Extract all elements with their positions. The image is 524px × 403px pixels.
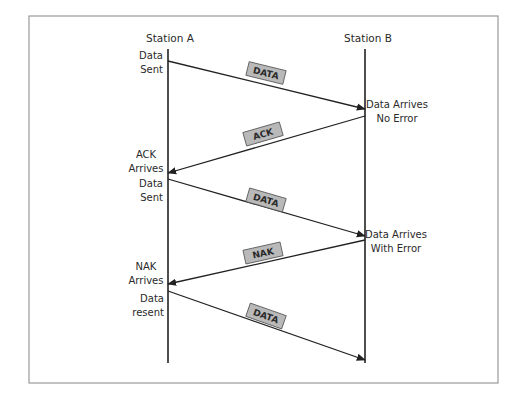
message-data-2: DATA xyxy=(168,179,365,236)
event-label-line: Sent xyxy=(140,64,163,75)
event-label-line: Data Arrives xyxy=(365,229,427,240)
event-label-line: Data Arrives xyxy=(366,99,428,110)
diagram-canvas: Station AStation B DATAACKDATANAKDATA Da… xyxy=(0,0,524,403)
event-label-line: Data xyxy=(139,178,163,189)
event-label-line: Arrives xyxy=(129,163,164,174)
message-arrow xyxy=(168,291,365,360)
message-label-tag: ACK xyxy=(243,122,283,146)
messages: DATAACKDATANAKDATA xyxy=(168,61,365,360)
message-label-tag: DATA xyxy=(246,188,286,212)
event-annotation: ACKArrives xyxy=(129,149,164,174)
station-a-title: Station A xyxy=(146,32,195,44)
event-label-line: Arrives xyxy=(129,275,164,286)
message-label-tag: NAK xyxy=(243,242,283,264)
message-data-0: DATA xyxy=(168,61,365,109)
message-nak-3: NAK xyxy=(168,240,365,284)
event-label-line: resent xyxy=(132,307,164,318)
event-label-line: Data xyxy=(139,50,163,61)
event-label-line: Sent xyxy=(140,192,163,203)
stop-and-wait-arq-diagram: Station AStation B DATAACKDATANAKDATA Da… xyxy=(0,0,524,403)
event-label-line: NAK xyxy=(136,261,157,272)
message-ack-1: ACK xyxy=(168,116,365,173)
message-data-4: DATA xyxy=(168,291,365,360)
station-b: Station B xyxy=(344,32,392,363)
event-label-line: With Error xyxy=(371,243,422,254)
event-annotation: DataSent xyxy=(139,50,163,75)
event-annotation: Dataresent xyxy=(132,293,164,318)
event-label-line: No Error xyxy=(376,113,418,124)
event-labels: DataSentData ArrivesNo ErrorACKArrivesDa… xyxy=(129,50,428,318)
event-annotation: DataSent xyxy=(139,178,163,203)
event-annotation: Data ArrivesWith Error xyxy=(365,229,427,254)
event-annotation: NAKArrives xyxy=(129,261,164,286)
message-arrow xyxy=(168,116,365,173)
event-label-line: ACK xyxy=(136,149,157,160)
event-annotation: Data ArrivesNo Error xyxy=(366,99,428,124)
event-label-line: Data xyxy=(140,293,164,304)
station-b-title: Station B xyxy=(344,32,392,44)
